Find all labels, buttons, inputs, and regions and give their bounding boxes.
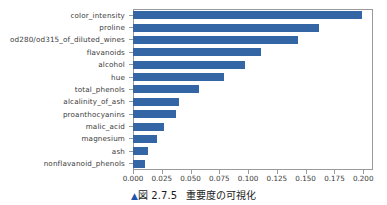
bar-series (133, 9, 373, 170)
bar-row (133, 96, 373, 108)
figure-container: color_intensityprolineod280/od315_of_dil… (0, 0, 387, 205)
x-tick-label: 0.175 (324, 174, 345, 183)
triangle-marker-icon: ▲ (131, 191, 138, 201)
bar (133, 110, 176, 118)
figure-number: 図 2.7.5 (138, 190, 177, 201)
y-tick-label-text: magnesium (81, 134, 125, 143)
y-tick-label-color_intensity: color_intensity (0, 9, 129, 21)
x-tick-label: 0.125 (267, 174, 288, 183)
bar-row (133, 34, 373, 46)
y-tick-label-text: hue (111, 73, 125, 82)
bar-row (133, 9, 373, 21)
bar (133, 73, 224, 81)
y-tick-label-text: color_intensity (70, 11, 125, 20)
bar (133, 48, 261, 56)
y-tick-label-flavanoids: flavanoids (0, 46, 129, 58)
bar (133, 98, 179, 106)
x-tick-label: 0.000 (123, 174, 144, 183)
y-tick-label-nonflavanoid_phenols: nonflavanoid_phenols (0, 158, 129, 170)
bar-row (133, 83, 373, 95)
y-tick-label-text: malic_acid (86, 122, 125, 131)
figure-caption: ▲図 2.7.5重要度の可視化 (0, 187, 387, 202)
x-axis-tick-labels: 0.0000.0250.0500.0750.1000.1250.1500.175… (133, 174, 373, 186)
y-tick-label-total_phenols: total_phenols (0, 83, 129, 95)
x-tick-label: 0.075 (209, 174, 230, 183)
y-tick-label-alcohol: alcohol (0, 59, 129, 71)
x-tick-label: 0.100 (238, 174, 259, 183)
y-tick-label-text: alcohol (98, 60, 125, 69)
y-tick-label-text: flavanoids (87, 48, 125, 57)
bar (133, 160, 145, 168)
y-tick-label-proline: proline (0, 21, 129, 33)
bar-row (133, 59, 373, 71)
bar-row (133, 133, 373, 145)
bar-row (133, 120, 373, 132)
y-tick-label-magnesium: magnesium (0, 133, 129, 145)
y-tick-label-text: total_phenols (75, 85, 125, 94)
y-tick-label-hue: hue (0, 71, 129, 83)
x-tick-label: 0.200 (353, 174, 374, 183)
y-tick-label-text: proline (99, 23, 125, 32)
y-tick-label-proanthocyanins: proanthocyanins (0, 108, 129, 120)
bar-row (133, 158, 373, 170)
bar-row (133, 108, 373, 120)
y-tick-label-text: alcalinity_of_ash (63, 97, 125, 106)
y-tick-label-text: nonflavanoid_phenols (44, 159, 125, 168)
y-tick-label-text: proanthocyanins (63, 110, 125, 119)
x-tick-label: 0.050 (180, 174, 201, 183)
y-tick-label-text: od280/od315_of_diluted_wines (10, 35, 125, 44)
bar-row (133, 71, 373, 83)
bar (133, 123, 164, 131)
y-tick-label-alcalinity_of_ash: alcalinity_of_ash (0, 96, 129, 108)
bar-row (133, 21, 373, 33)
bar (133, 135, 157, 143)
x-tick-label: 0.025 (151, 174, 172, 183)
bar (133, 147, 148, 155)
y-tick-label-od280/od315_of_diluted_wines: od280/od315_of_diluted_wines (0, 34, 129, 46)
bar-row (133, 145, 373, 157)
x-tick-label: 0.150 (295, 174, 316, 183)
bar (133, 85, 199, 93)
bar (133, 61, 245, 69)
caption-title: 重要度の可視化 (186, 190, 256, 201)
bar (133, 36, 298, 44)
y-tick-label-malic_acid: malic_acid (0, 120, 129, 132)
bar (133, 24, 319, 32)
bar (133, 11, 362, 19)
y-axis-tick-labels: color_intensityprolineod280/od315_of_dil… (0, 9, 129, 170)
bar-row (133, 46, 373, 58)
y-tick-label-text: ash (112, 147, 125, 156)
y-tick-label-ash: ash (0, 145, 129, 157)
